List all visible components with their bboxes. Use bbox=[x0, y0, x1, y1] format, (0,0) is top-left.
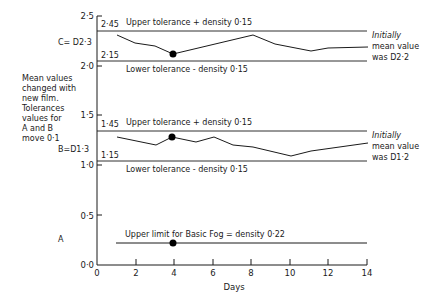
series-b-line bbox=[117, 137, 368, 156]
y-tick-label: 1·0 bbox=[80, 160, 94, 170]
c-upper-value: 2·45 bbox=[101, 20, 119, 29]
x-tick-label: 2 bbox=[133, 268, 138, 278]
y-tick-label: 2·0 bbox=[80, 61, 94, 71]
series-a-marker bbox=[170, 240, 177, 247]
x-tick-label: 12 bbox=[323, 268, 334, 278]
x-tick-labels: 0 2 4 6 8 10 12 14 Days bbox=[94, 268, 372, 292]
b-initial-line: was D1·2 bbox=[372, 153, 409, 162]
c-initial-line: Initially bbox=[372, 31, 401, 40]
c-initial-note: Initially mean value was D2·2 bbox=[372, 31, 419, 62]
x-tick-label: 8 bbox=[248, 268, 253, 278]
axes bbox=[97, 16, 367, 265]
x-tick-label: 6 bbox=[210, 268, 215, 278]
chart: 2·5 2·0 1·5 1·0 0·5 0·0 0 2 4 6 8 10 12 … bbox=[0, 0, 433, 301]
c-lower-value: 2·15 bbox=[101, 51, 119, 60]
y-tick-labels: 2·5 2·0 1·5 1·0 0·5 0·0 bbox=[80, 11, 94, 270]
b-upper-value: 1·45 bbox=[101, 120, 119, 129]
series-a-label: A bbox=[58, 235, 64, 244]
markers bbox=[169, 51, 177, 247]
note-block: Mean values changed with new film. Toler… bbox=[21, 74, 76, 143]
x-tick-label: 14 bbox=[362, 268, 373, 278]
note-line: new film. bbox=[22, 94, 59, 103]
c-upper-text: Upper tolerance + density 0·15 bbox=[126, 18, 252, 27]
note-line: changed with bbox=[22, 84, 76, 93]
fog-limit-text: Upper limit for Basic Fog = density 0·22 bbox=[125, 230, 285, 239]
series-b-marker bbox=[169, 134, 176, 141]
series-c-line bbox=[117, 35, 368, 54]
y-tick-label: 0·0 bbox=[80, 260, 94, 270]
b-initial-note: Initially mean value was D1·2 bbox=[372, 131, 419, 162]
reference-labels: 2·45 Upper tolerance + density 0·15 2·15… bbox=[101, 18, 285, 239]
note-line: A and B bbox=[22, 124, 53, 133]
b-lower-value: 1·15 bbox=[101, 151, 119, 160]
note-line: move 0·1 bbox=[22, 134, 60, 143]
x-tick-label: 4 bbox=[171, 268, 176, 278]
x-axis-title: Days bbox=[223, 282, 245, 292]
series-c-label: C= D2·3 bbox=[58, 38, 92, 47]
b-initial-line: Initially bbox=[372, 131, 401, 140]
y-tick-label: 2·5 bbox=[80, 11, 94, 21]
series-c-marker bbox=[170, 51, 177, 58]
note-line: values for bbox=[22, 114, 62, 123]
y-tick-label: 1·5 bbox=[80, 110, 94, 120]
b-upper-text: Upper tolerance + density 0·15 bbox=[126, 118, 252, 127]
b-lower-text: Lower tolerance - density 0·15 bbox=[126, 165, 248, 174]
series-b-label: B=D1·3 bbox=[58, 145, 89, 154]
c-initial-line: was D2·2 bbox=[372, 53, 409, 62]
y-tick-label: 0·5 bbox=[80, 211, 94, 221]
c-initial-line: mean value bbox=[372, 42, 419, 51]
note-line: Tolerances bbox=[21, 104, 64, 113]
x-tick-label: 0 bbox=[94, 268, 99, 278]
b-initial-line: mean value bbox=[372, 142, 419, 151]
x-tick-label: 10 bbox=[285, 268, 296, 278]
note-line: Mean values bbox=[22, 74, 72, 83]
c-lower-text: Lower tolerance - density 0·15 bbox=[126, 65, 248, 74]
